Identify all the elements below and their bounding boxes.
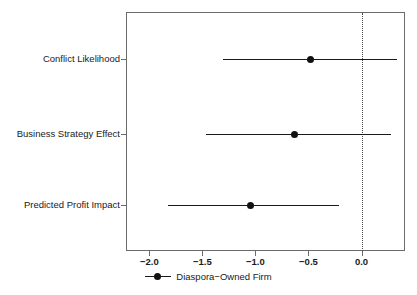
legend-series-marker-icon — [145, 272, 171, 281]
y-axis-label-text: Conflict Likelihood — [43, 53, 120, 64]
point-estimate-marker-0 — [307, 56, 314, 63]
y-axis-tick-2 — [121, 205, 126, 206]
x-axis-ticklabel-1: −1.5 — [182, 257, 222, 267]
y-axis-label-text: Business Strategy Effect — [17, 128, 120, 139]
x-axis-ticklabel-4: 0.0 — [342, 257, 382, 267]
y-axis-label-predicted-profit-impact: Predicted Profit Impact — [0, 200, 120, 210]
y-axis-label-business-strategy-effect: Business Strategy Effect — [0, 129, 120, 139]
point-estimate-marker-2 — [247, 202, 254, 209]
chart-legend: Diaspora−Owned Firm — [0, 272, 417, 282]
x-axis-ticklabel-0: −2.0 — [129, 257, 169, 267]
x-axis-ticklabel-2: −1.0 — [235, 257, 275, 267]
plot-area-frame — [126, 12, 405, 251]
coefficient-plot-figure: Conflict Likelihood Business Strategy Ef… — [0, 0, 417, 295]
y-axis-label-text: Predicted Profit Impact — [24, 199, 120, 210]
confidence-interval-bar-2 — [168, 205, 339, 206]
y-axis-tick-0 — [121, 59, 126, 60]
zero-reference-line — [362, 13, 363, 251]
point-estimate-marker-1 — [291, 131, 298, 138]
legend-series-label: Diaspora−Owned Firm — [176, 272, 271, 282]
x-axis-ticklabel-3: −0.5 — [288, 257, 328, 267]
y-axis-tick-1 — [121, 134, 126, 135]
y-axis-label-conflict-likelihood: Conflict Likelihood — [0, 54, 120, 64]
confidence-interval-bar-1 — [206, 134, 392, 135]
